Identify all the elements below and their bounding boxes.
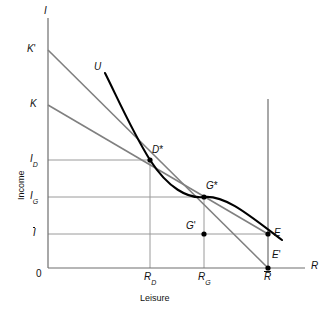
label-g-star-mark: * (214, 180, 218, 191)
label-e-prime-mark: ' (279, 249, 281, 260)
label-g-prime-mark: ' (194, 220, 196, 231)
label-e-prime-letter: E (272, 249, 279, 260)
ytick-income-bar-letter: I (33, 228, 36, 238)
y-axis-name: I (44, 6, 47, 16)
label-d-star-mark: * (159, 144, 163, 155)
xtick-leisure-d-sub: D (151, 279, 156, 286)
ytick-income-d: ID (30, 154, 38, 166)
point-g-prime (201, 231, 206, 236)
budget-line-k (48, 105, 268, 234)
x-axis-name: R (311, 261, 318, 271)
ytick-income-g: IG (30, 191, 38, 203)
ytick-income-g-sub: G (33, 198, 38, 205)
indifference-curve-u (105, 73, 282, 240)
point-g-star (201, 194, 206, 199)
label-k-prime: K' (27, 44, 36, 54)
xtick-leisure-g-sub: G (205, 279, 210, 286)
label-g-star: G* (206, 181, 218, 191)
label-k-prime-mark: ' (34, 43, 36, 54)
label-g-star-letter: G (206, 180, 214, 191)
xtick-leisure-g: RG (198, 272, 211, 284)
axes (48, 18, 305, 268)
label-k-prime-letter: K (27, 43, 34, 54)
label-g-prime-letter: G (186, 220, 194, 231)
ytick-income-d-sub: D (33, 161, 38, 168)
xtick-leisure-d: RD (144, 272, 156, 284)
label-e-prime: E' (272, 250, 281, 260)
diagram-canvas (0, 0, 330, 316)
ytick-income-bar: I (33, 228, 36, 238)
label-d-star: D* (152, 145, 163, 155)
xtick-leisure-bar: R (264, 272, 271, 282)
origin-label: 0 (36, 269, 42, 279)
label-g-prime: G' (186, 221, 196, 231)
labor-leisure-diagram: I R 0 K' K U D* G* G' E E' ID IG I RD (0, 0, 330, 316)
label-u-curve: U (94, 62, 101, 72)
budget-line-k-prime (48, 50, 268, 268)
label-e: E (274, 228, 281, 238)
point-e (265, 231, 270, 236)
point-d-star (147, 157, 152, 162)
xtick-leisure-bar-letter: R (264, 272, 271, 282)
y-axis-title: Income (16, 170, 26, 200)
label-k: K (30, 99, 37, 109)
x-axis-title: Leisure (140, 293, 170, 303)
